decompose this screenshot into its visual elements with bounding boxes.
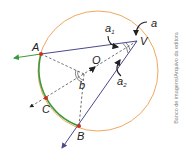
point-a [39,52,43,56]
label-b: B [77,130,84,142]
point-b [77,124,81,128]
label-angle-b: b [79,79,85,91]
arc-acb [39,54,79,126]
pointer-o [90,67,95,71]
pointer-a1 [108,36,118,47]
label-angle-a: a [151,17,157,29]
label-c: C [42,103,50,115]
image-credit: Banco de imagens/Arquivo da editora [173,32,179,124]
label-a: A [31,41,39,53]
point-c [44,96,48,100]
green-arrow-a [14,54,41,58]
line-va [41,41,137,54]
inscribed-angle-diagram: A C B O V a a1 a2 b [0,0,194,155]
label-o: O [92,54,101,66]
dashed-oa [41,54,84,74]
pointer-a [136,22,147,35]
label-angle-a1: a1 [105,22,114,35]
circle [38,11,158,131]
label-angle-a2: a2 [117,75,127,88]
